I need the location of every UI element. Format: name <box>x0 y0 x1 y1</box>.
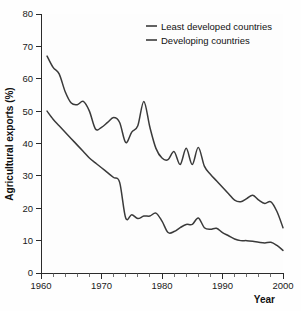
y-ticklabel: 20 <box>22 203 33 214</box>
agricultural-exports-line-chart: 01020304050607080 19601970198019902000 A… <box>0 0 301 311</box>
y-ticklabel: 0 <box>28 267 33 278</box>
y-ticklabel: 40 <box>22 138 33 149</box>
y-ticklabel: 70 <box>22 41 33 52</box>
y-ticklabel-group: 01020304050607080 <box>22 8 33 278</box>
x-axis-title: Year <box>254 294 275 305</box>
y-ticklabel: 10 <box>22 235 33 246</box>
chart-legend: Least developed countries Developing cou… <box>141 17 284 48</box>
y-ticklabel: 80 <box>22 8 33 19</box>
x-ticklabel: 1980 <box>151 280 172 291</box>
x-ticklabel: 2000 <box>272 280 293 291</box>
y-ticklabel: 60 <box>22 73 33 84</box>
y-ticklabel: 50 <box>22 106 33 117</box>
plot-area <box>41 14 283 273</box>
x-ticklabel: 1990 <box>212 280 233 291</box>
chart-figure: 01020304050607080 19601970198019902000 A… <box>0 0 301 311</box>
legend-label-least-developed: Least developed countries <box>161 21 272 32</box>
y-axis-title: Agricultural exports (%) <box>4 87 15 200</box>
legend-label-developing: Developing countries <box>161 35 250 46</box>
x-ticklabel: 1970 <box>91 280 112 291</box>
x-ticklabel: 1960 <box>30 280 51 291</box>
y-ticklabel: 30 <box>22 170 33 181</box>
